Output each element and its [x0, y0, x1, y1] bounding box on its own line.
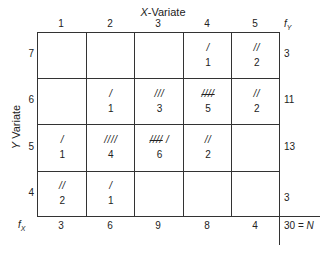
cell-x1-y4: //2	[38, 171, 87, 217]
row-header-4: 4	[22, 187, 34, 198]
fx-header: fX	[18, 219, 25, 232]
x-axis-title: X-Variate	[0, 6, 326, 18]
cell-x1-y5: /1	[38, 125, 87, 171]
column-header-2: 2	[86, 18, 134, 29]
row-total-6: 11	[284, 94, 294, 105]
column-total-3: 9	[134, 220, 182, 231]
cell-x2-y4: /1	[87, 171, 136, 217]
y-axis-title: Y Variate	[10, 97, 22, 157]
totals-vertical-rule	[279, 32, 280, 245]
fy-header: fY	[284, 18, 291, 31]
cell-x3-y4	[135, 171, 184, 217]
cell-x2-y7	[87, 33, 136, 79]
cell-x5-y6: //2	[232, 79, 281, 125]
cell-x1-y7	[38, 33, 87, 79]
cell-x3-y5: //// /6	[135, 125, 184, 171]
cell-x2-y6: /1	[87, 79, 136, 125]
cell-x4-y6: ////5	[184, 79, 233, 125]
column-total-5: 4	[231, 220, 279, 231]
row-header-6: 6	[22, 94, 34, 105]
cell-x1-y6	[38, 79, 87, 125]
cell-x3-y7	[135, 33, 184, 79]
grand-total: 30 = N	[284, 220, 314, 231]
row-total-7: 3	[284, 48, 290, 59]
row-header-7: 7	[22, 48, 34, 59]
column-header-4: 4	[183, 18, 231, 29]
cell-x5-y4	[232, 171, 281, 217]
column-header-5: 5	[231, 18, 279, 29]
cell-x4-y5: //2	[184, 125, 233, 171]
column-header-3: 3	[134, 18, 182, 29]
column-total-2: 6	[86, 220, 134, 231]
frequency-grid: /1 //2 /1 ///3 ////5 //2 /1 ////4 //// /…	[37, 32, 280, 217]
row-total-4: 3	[284, 192, 290, 203]
row-total-5: 13	[284, 141, 295, 152]
cell-x4-y7: /1	[184, 33, 233, 79]
column-total-1: 3	[37, 220, 85, 231]
totals-horizontal-rule	[280, 216, 320, 217]
cell-x4-y4	[184, 171, 233, 217]
cell-x3-y6: ///3	[135, 79, 184, 125]
cell-x2-y5: ////4	[87, 125, 136, 171]
cell-x5-y5	[232, 125, 281, 171]
column-total-4: 8	[183, 220, 231, 231]
row-header-5: 5	[22, 141, 34, 152]
column-header-1: 1	[37, 18, 85, 29]
cell-x5-y7: //2	[232, 33, 281, 79]
